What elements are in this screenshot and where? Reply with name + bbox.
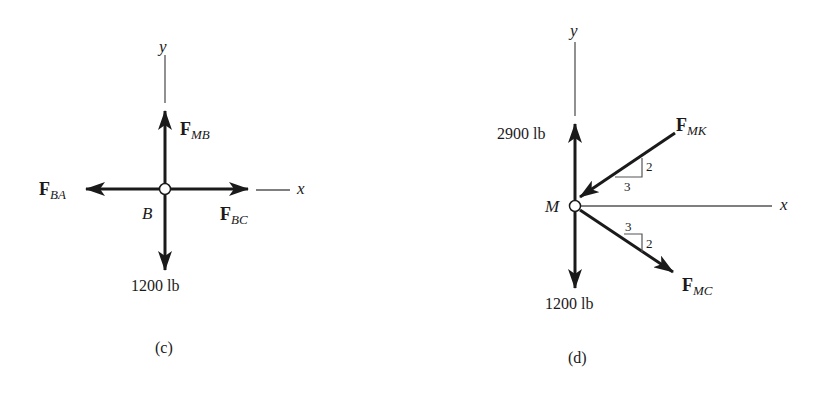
slope-triangle-fmk	[615, 158, 642, 177]
caption-d: (d)	[568, 350, 587, 366]
diagram-canvas	[0, 0, 825, 394]
slope-rise-fmc: 2	[646, 237, 653, 250]
y-axis-label-c: y	[159, 38, 167, 55]
force-label-fbc: FBC	[220, 205, 248, 223]
x-axis-label-d: x	[780, 196, 788, 213]
figure-c	[86, 55, 290, 270]
force-label-1200-c: 1200 lb	[131, 278, 179, 294]
force-label-2900: 2900 lb	[497, 126, 545, 142]
joint-m	[570, 201, 581, 212]
force-label-1200-d: 1200 lb	[545, 296, 593, 312]
x-axis-label-c: x	[297, 180, 305, 197]
force-label-fmb: FMB	[180, 120, 210, 138]
slope-run-fmc: 3	[625, 220, 632, 233]
slope-rise-fmk: 2	[646, 160, 653, 173]
force-label-fba: FBA	[39, 180, 66, 198]
force-label-fmk: FMK	[676, 116, 707, 134]
y-axis-label-d: y	[570, 22, 578, 39]
force-label-fmc: FMC	[682, 276, 713, 294]
caption-c: (c)	[155, 340, 173, 356]
joint-label-m: M	[545, 198, 559, 215]
figure-d	[570, 42, 773, 288]
joint-label-b: B	[142, 205, 152, 222]
slope-run-fmk: 3	[624, 180, 631, 193]
joint-b	[160, 184, 171, 195]
